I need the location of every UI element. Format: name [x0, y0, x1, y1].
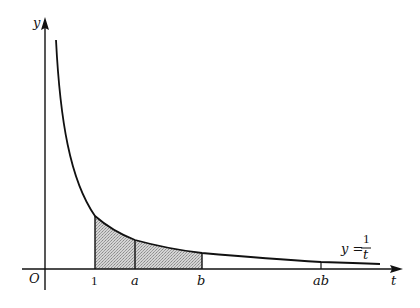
- tick-label-a: a: [131, 273, 139, 288]
- t-axis-label: t: [391, 273, 397, 288]
- origin-label: O: [29, 271, 40, 286]
- equation-numerator: 1: [363, 231, 370, 246]
- tick-label-1: 1: [91, 273, 98, 288]
- equation-lhs: y =: [340, 241, 363, 256]
- shaded-region-1-to-a: [95, 216, 135, 269]
- equation-denominator: t: [363, 247, 369, 262]
- shaded-region-a-to-b: [135, 240, 202, 269]
- tick-label-b: b: [197, 273, 205, 288]
- diagram-canvas: y O t 1 a b ab y = 1 t: [0, 0, 420, 308]
- curve-equation-label: y = 1 t: [340, 231, 371, 262]
- y-axis-label: y: [32, 15, 41, 30]
- tick-label-ab: ab: [313, 273, 329, 288]
